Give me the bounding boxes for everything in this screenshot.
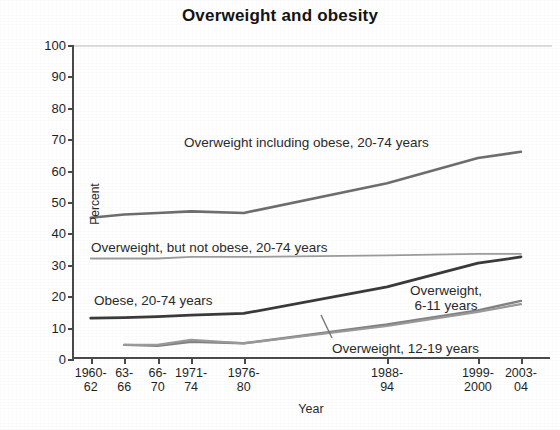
chart-figure: Overweight and obesity Percent 100908070… [0,0,560,430]
annotation-overweight-not-obese: Overweight, but not obese, 20-74 years [91,240,327,255]
y-tick-label: 80 [30,102,66,115]
plot-area: Percent 1009080706050403020100 1960- 626… [72,45,550,359]
y-tick-label: 30 [30,259,66,272]
annotation-overweight-6-11: Overweight, 6-11 years [398,283,494,313]
x-tick-mark [387,357,389,364]
chart-title: Overweight and obesity [0,6,560,26]
x-tick-mark [478,357,480,364]
y-tick-mark [68,171,74,173]
x-tick-label: 1976- 80 [215,366,273,394]
x-axis-title: Year [72,402,550,416]
x-tick-mark [244,357,246,364]
y-tick-label: 100 [30,39,66,52]
x-tick-mark [521,357,523,364]
y-tick-mark [68,328,74,330]
y-tick-label: 70 [30,133,66,146]
y-tick-label: 60 [30,165,66,178]
y-tick-label: 90 [30,70,66,83]
y-tick-mark [68,265,74,267]
y-tick-mark [68,108,74,110]
x-tick-label: 2003- 04 [492,366,550,394]
y-tick-label: 40 [30,227,66,240]
x-tick-mark [91,357,93,364]
series-line [91,152,521,218]
y-tick-label: 20 [30,290,66,303]
y-tick-label: 10 [30,322,66,335]
x-tick-mark [158,357,160,364]
annotation-obese: Obese, 20-74 years [94,293,213,308]
y-tick-label: 0 [30,353,66,366]
y-tick-mark [68,359,74,361]
annotation-overweight-12-19: Overweight, 12-19 years [332,341,479,356]
y-axis-title: Percent [88,159,102,249]
x-tick-label: 1971- 74 [162,366,220,394]
annotation-overweight-including-obese: Overweight including obese, 20-74 years [184,135,429,150]
y-tick-mark [68,76,74,78]
y-tick-mark [68,296,74,298]
y-tick-mark [68,45,74,47]
x-tick-mark [124,357,126,364]
y-tick-mark [68,233,74,235]
x-tick-mark [191,357,193,364]
y-tick-mark [68,202,74,204]
y-tick-label: 50 [30,196,66,209]
y-tick-mark [68,139,74,141]
x-tick-label: 1988- 94 [358,366,416,394]
